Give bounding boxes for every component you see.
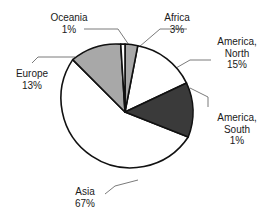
pie-label-africa-percent: 3% [150, 24, 204, 36]
pie-label-america-north-percent: 15% [207, 59, 267, 71]
pie-slices [61, 44, 193, 168]
pie-label-europe: Europe 13% [2, 68, 62, 91]
pie-chart-figure: Oceania 1% Africa 3% America, North 15% … [0, 0, 267, 218]
pie-label-america-south-percent: 1% [207, 135, 267, 147]
pie-label-africa: Africa 3% [150, 12, 204, 35]
pie-label-asia: Asia 67% [62, 186, 108, 209]
pie-label-oceania-name: Oceania [32, 12, 106, 24]
pie-label-europe-percent: 13% [2, 80, 62, 92]
pie-label-asia-name: Asia [62, 186, 108, 198]
leader-line-asia [105, 180, 138, 194]
pie-label-america-north-name-2: North [207, 48, 267, 60]
pie-label-asia-percent: 67% [62, 198, 108, 210]
pie-label-africa-name: Africa [150, 12, 204, 24]
pie-label-america-south-name-2: South [207, 124, 267, 136]
leader-line-europe [32, 57, 75, 63]
pie-label-america-south-name-1: America, [207, 112, 267, 124]
pie-label-america-north-name-1: America, [207, 36, 267, 48]
pie-label-oceania: Oceania 1% [32, 12, 106, 35]
pie-label-europe-name: Europe [2, 68, 62, 80]
pie-label-oceania-percent: 1% [32, 24, 106, 36]
pie-label-america-north: America, North 15% [207, 36, 267, 71]
pie-label-america-south: America, South 1% [207, 112, 267, 147]
